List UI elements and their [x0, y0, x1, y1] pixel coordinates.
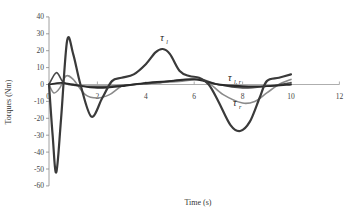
x-tick-label: 12: [336, 92, 344, 101]
x-tick-label: 8: [241, 92, 245, 101]
torque-chart: 403020100-10-20-30-40-50-60 024681012 τl…: [0, 0, 362, 215]
y-tick-label: 20: [37, 46, 45, 55]
series-annotation-subscript: r: [239, 104, 242, 110]
y-tick-label: 40: [37, 12, 45, 21]
y-tick-label: -10: [34, 97, 44, 106]
series-layer: [49, 37, 291, 172]
y-tick-label: -30: [34, 131, 44, 140]
y-tick-label: 0: [40, 80, 44, 89]
y-tick-label: -50: [34, 165, 44, 174]
y-tick-label: -40: [34, 148, 44, 157]
x-tick-label: 2: [96, 92, 100, 101]
y-axis: 403020100-10-20-30-40-50-60: [34, 12, 49, 190]
y-axis-title: Torques (Nm): [4, 79, 13, 124]
x-axis-title: Time (s): [184, 198, 211, 207]
series-line-0: [49, 37, 291, 172]
x-tick-label: 10: [287, 92, 295, 101]
series-annotation-subscript: l: [166, 39, 168, 45]
series-annotation-subscript: l, r: [234, 79, 242, 85]
x-tick-label: 6: [192, 92, 196, 101]
y-tick-label: -60: [34, 181, 44, 190]
x-tick-label: 4: [144, 92, 148, 101]
series-annotation: τ: [233, 97, 237, 108]
series-line-3: [49, 79, 291, 88]
y-tick-label: 30: [37, 29, 45, 38]
series-annotation: τ: [228, 72, 232, 83]
y-tick-label: -20: [34, 114, 44, 123]
y-tick-label: 10: [37, 63, 45, 72]
series-annotation: τ: [160, 32, 164, 43]
